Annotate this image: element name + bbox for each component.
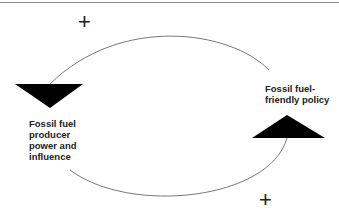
top-arc-link bbox=[50, 36, 269, 84]
causal-loop-diagram bbox=[0, 0, 339, 217]
top-polarity-plus: + bbox=[78, 11, 91, 33]
bottom-arc-link bbox=[70, 138, 287, 196]
producer-node-label: Fossil fuel producer power and influence bbox=[29, 118, 89, 162]
producer-triangle-icon bbox=[15, 84, 83, 108]
bottom-polarity-plus: + bbox=[259, 189, 272, 211]
policy-node-label: Fossil fuel-friendly policy bbox=[265, 83, 339, 105]
policy-triangle-icon bbox=[252, 115, 325, 138]
